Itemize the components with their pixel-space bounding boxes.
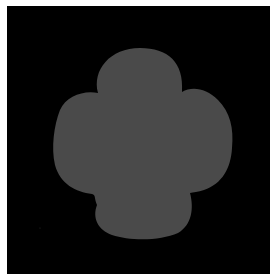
- gray-blob-shape: [53, 48, 232, 239]
- noise-speck: [39, 227, 40, 228]
- image-frame: [0, 0, 276, 279]
- blob-figure: [0, 0, 276, 279]
